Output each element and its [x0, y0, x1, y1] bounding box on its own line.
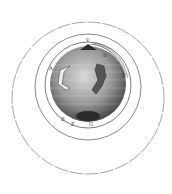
- label-F: F: [71, 121, 75, 127]
- label-A: A: [48, 65, 53, 71]
- label-B: B: [61, 116, 65, 122]
- globe: [50, 43, 128, 122]
- label-V: V: [85, 37, 90, 43]
- dark-base: [76, 111, 100, 121]
- label-G: G: [89, 121, 93, 127]
- label-E: E: [122, 72, 126, 78]
- label-D: D: [103, 52, 107, 58]
- orbit-diagram: V D E A B F G: [0, 0, 172, 194]
